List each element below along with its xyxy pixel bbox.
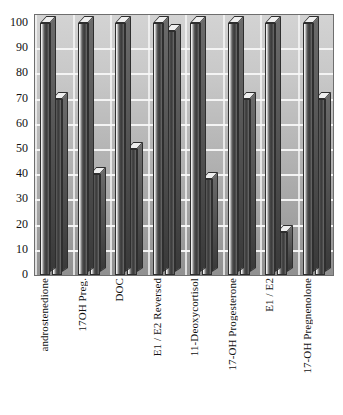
bar-front-face — [190, 23, 200, 275]
x-axis-tick-label: DOC — [113, 278, 125, 302]
bar-front-face — [303, 23, 313, 275]
bar-side-face — [275, 16, 281, 272]
bar[interactable] — [265, 23, 275, 275]
y-axis-tick-label: 70 — [16, 92, 28, 104]
bar[interactable] — [153, 23, 163, 275]
bar-group — [298, 15, 335, 275]
bar-group — [260, 15, 298, 275]
bar-side-face — [325, 92, 331, 272]
y-axis-tick-label: 0 — [22, 268, 28, 280]
bar-group — [148, 15, 186, 275]
bar-side-face — [175, 24, 181, 272]
y-axis-tick-label: 50 — [16, 142, 28, 154]
bar-group — [35, 15, 73, 275]
bar[interactable] — [303, 23, 313, 275]
bar-side-face — [50, 16, 56, 272]
y-axis: 1009080706050403020100 — [0, 14, 32, 276]
y-axis-tick-label: 60 — [16, 117, 28, 129]
gridline — [35, 275, 333, 276]
bar-side-face — [313, 16, 319, 272]
bar-front-face — [40, 23, 50, 275]
bar-front-face — [228, 23, 238, 275]
bar-side-face — [238, 16, 244, 272]
bar-side-face — [137, 142, 143, 272]
x-axis-tick-label: E1 / E2 — [263, 278, 275, 312]
bar[interactable] — [115, 23, 125, 275]
bar-series-group — [35, 15, 333, 275]
bar-side-face — [163, 16, 169, 272]
bar-front-face — [78, 23, 88, 275]
x-axis-tick-label: 11-Deoxycortisol — [188, 278, 200, 356]
bar[interactable] — [78, 23, 88, 275]
bar-side-face — [212, 172, 218, 272]
bar-front-face — [265, 23, 275, 275]
plot-area — [34, 14, 334, 276]
y-axis-tick-label: 40 — [16, 167, 28, 179]
bar[interactable] — [40, 23, 50, 275]
bar-side-face — [88, 16, 94, 272]
bar-side-face — [250, 92, 256, 272]
bar-side-face — [100, 167, 106, 272]
bar-front-face — [153, 23, 163, 275]
y-axis-tick-label: 100 — [10, 16, 28, 28]
bar-side-face — [62, 92, 68, 272]
bar-group — [110, 15, 148, 275]
bar-front-face — [115, 23, 125, 275]
x-axis: androstenedione17OH Preg.DOCE1 / E2 Reve… — [34, 278, 334, 415]
bar-group — [223, 15, 261, 275]
x-axis-tick-label: 17OH Preg. — [76, 278, 88, 332]
bar-group — [73, 15, 111, 275]
y-axis-tick-label: 90 — [16, 41, 28, 53]
y-axis-tick-label: 20 — [16, 218, 28, 230]
bar-side-face — [200, 16, 206, 272]
y-axis-tick-label: 30 — [16, 192, 28, 204]
x-axis-tick-label: 17-OH Progesterone — [226, 278, 238, 371]
bar-side-face — [125, 16, 131, 272]
x-axis-tick-label: androstenedione — [38, 278, 50, 352]
bar-side-face — [287, 225, 293, 272]
x-axis-tick-label: 17-OH Pregnenolone — [301, 278, 313, 374]
chart-container: 1009080706050403020100 androstenedione17… — [0, 0, 343, 415]
bar[interactable] — [190, 23, 200, 275]
bar[interactable] — [228, 23, 238, 275]
x-axis-tick-label: E1 / E2 Reversed — [151, 278, 163, 356]
y-axis-tick-label: 80 — [16, 66, 28, 78]
bar-group — [185, 15, 223, 275]
y-axis-tick-label: 10 — [16, 243, 28, 255]
